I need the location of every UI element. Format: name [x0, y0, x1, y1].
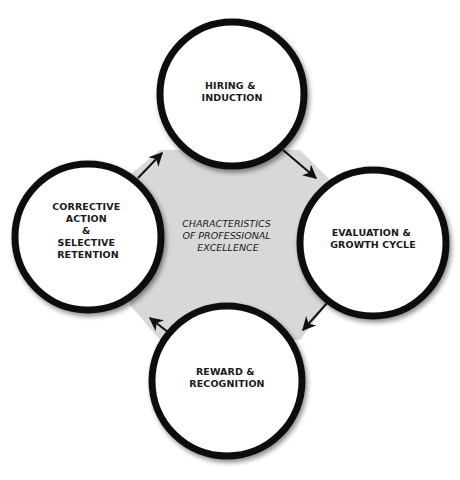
center-label-line: OF PROFESSIONAL [182, 230, 270, 241]
node-label-line: RECOGNITION [189, 378, 264, 389]
node-label: EVALUATION & GROWTH CYCLE [330, 227, 416, 250]
node-label-line: RETENTION [57, 249, 119, 260]
node-label-line: & [82, 225, 90, 236]
node-label-line: REWARD & [196, 366, 255, 377]
node-corrective-retention: CORRECTIVE ACTION & SELECTIVE RETENTION [15, 164, 161, 310]
node-hiring-induction: HIRING & INDUCTION [160, 22, 304, 166]
node-evaluation-growth: EVALUATION & GROWTH CYCLE [300, 170, 446, 316]
node-label-line: SELECTIVE [57, 237, 115, 248]
node-label-line: CORRECTIVE [52, 201, 120, 212]
node-label: REWARD & RECOGNITION [189, 366, 264, 389]
node-reward-recognition: REWARD & RECOGNITION [152, 306, 302, 456]
node-label-line: HIRING & [205, 80, 255, 91]
node-label-line: GROWTH CYCLE [330, 239, 416, 250]
node-label: HIRING & INDUCTION [202, 80, 263, 103]
center-label-line: EXCELLENCE [197, 242, 258, 253]
professional-excellence-cycle-diagram: CHARACTERISTICS OF PROFESSIONAL EXCELLEN… [0, 0, 460, 480]
center-label-line: CHARACTERISTICS [182, 218, 271, 229]
node-label-line: ACTION [66, 213, 107, 224]
node-label-line: EVALUATION & [332, 227, 411, 238]
node-label-line: INDUCTION [202, 92, 263, 103]
